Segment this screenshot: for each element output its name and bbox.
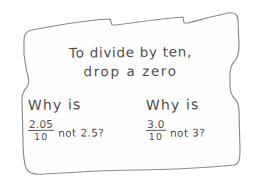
question-tail-left: not 2.5? [54, 126, 104, 141]
heading-line-2: drop a zero [0, 62, 261, 80]
fraction-denominator-right: 10 [149, 131, 164, 142]
fraction-left: 2.05 10 [28, 119, 54, 142]
note-text-layer: To divide by ten, drop a zero Why is 2.0… [0, 0, 261, 185]
fraction-numerator-right: 3.0 [146, 119, 165, 130]
question-title-right: Why is [146, 96, 205, 113]
question-expression-right: 3.0 10 not 3? [146, 118, 205, 141]
question-title-left: Why is [28, 96, 104, 113]
handwritten-note-scene: To divide by ten, drop a zero Why is 2.0… [0, 0, 261, 185]
question-block-right: Why is 3.0 10 not 3? [146, 97, 205, 142]
heading-line-1: To divide by ten, [0, 43, 261, 62]
fraction-right: 3.0 10 [146, 119, 166, 142]
fraction-denominator-left: 10 [34, 131, 49, 142]
question-block-left: Why is 2.05 10 not 2.5? [28, 97, 104, 142]
question-tail-right: not 3? [166, 126, 205, 141]
question-expression-left: 2.05 10 not 2.5? [28, 118, 104, 142]
fraction-numerator-left: 2.05 [28, 119, 54, 130]
